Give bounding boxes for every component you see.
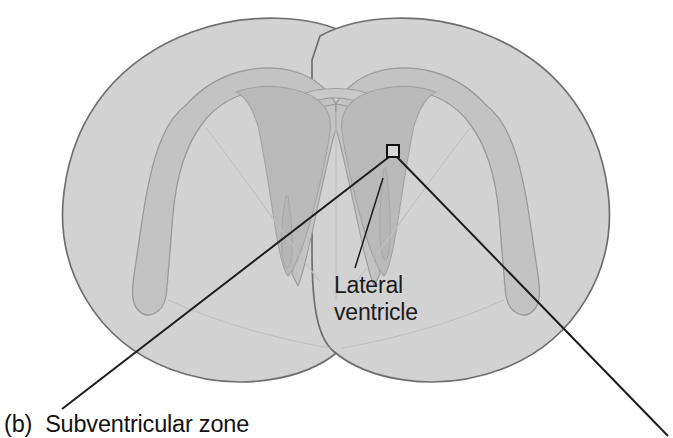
brain-section-illustration (0, 0, 673, 438)
magnification-box-icon (387, 145, 399, 157)
panel-caption: (b) Subventricular zone (4, 411, 249, 438)
panel-caption-text: Subventricular zone (45, 411, 249, 438)
figure-panel-b: Lateral ventricle (b) Subventricular zon… (0, 0, 673, 438)
lateral-ventricle-label-line2: ventricle (334, 299, 418, 326)
panel-letter: (b) (4, 411, 32, 438)
lateral-ventricle-label: Lateral ventricle (334, 272, 418, 326)
lateral-ventricle-label-line1: Lateral (334, 272, 418, 299)
